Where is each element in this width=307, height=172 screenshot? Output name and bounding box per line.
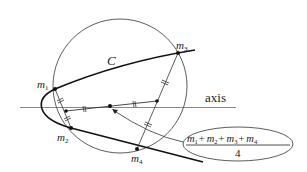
curve-label: C [107,53,116,68]
point-m4 [135,147,139,151]
centroid-denominator: 4 [235,147,241,159]
label-m1: m1 [37,78,49,92]
point-mid-m3m4 [155,99,159,103]
label-m4: m4 [131,152,143,166]
label-m3: m3 [176,39,188,53]
point-m3 [176,51,180,55]
point-m1 [53,87,57,91]
leader-arrow-icon [112,109,118,114]
parabola-curve [41,50,203,162]
point-centroid [108,104,112,108]
tick-marks [57,80,169,127]
label-m2: m2 [57,131,69,145]
point-m2 [69,126,73,130]
axis-label: axis [205,90,226,105]
parabola-circle-diagram: C axis m1 m2 m3 m4 m1+m2+m3+m4 4 [0,0,307,172]
point-mid-m1m2 [64,109,68,113]
circle [53,19,187,153]
points [53,51,180,151]
chord-m1-m2 [55,89,71,128]
